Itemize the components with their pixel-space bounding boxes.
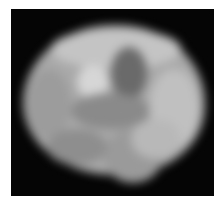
lower-bright-region <box>131 119 181 159</box>
left-dim-region <box>27 69 71 139</box>
image-frame <box>11 9 214 196</box>
celestial-body <box>11 9 214 196</box>
dark-patch-upper-center <box>111 47 147 99</box>
lower-left-dim <box>47 129 107 165</box>
